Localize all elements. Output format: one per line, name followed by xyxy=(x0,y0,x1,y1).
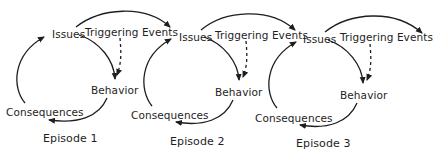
node-consequences-3: Consequences xyxy=(255,113,333,124)
arrow-consequences-to-issues-2 xyxy=(144,39,171,106)
node-behavior-1: Behavior xyxy=(91,85,138,96)
node-triggering-events-2: Triggering Events xyxy=(215,30,308,41)
node-consequences-1: Consequences xyxy=(6,107,84,118)
episode-label-1: Episode 1 xyxy=(43,133,98,144)
dashed-arrow-triggering-to-behavior-2 xyxy=(243,41,247,77)
arrow-issues2-to-issues3 xyxy=(201,14,295,30)
arrow-issues1-to-issues2 xyxy=(76,11,170,27)
dashed-arrow-triggering-to-behavior-1 xyxy=(117,38,121,75)
node-issues-2: Issues xyxy=(179,32,212,43)
arrow-issues-to-behavior-1 xyxy=(79,35,115,79)
episode-label-2: Episode 2 xyxy=(170,136,225,147)
arrow-issues-to-behavior-3 xyxy=(328,40,363,83)
episode-label-3: Episode 3 xyxy=(296,138,351,149)
node-behavior-2: Behavior xyxy=(215,87,262,98)
node-issues-3: Issues xyxy=(303,34,336,45)
node-triggering-events-1: Triggering Events xyxy=(85,27,178,38)
arrow-consequences-to-issues-1 xyxy=(17,37,44,103)
arrow-consequences-to-issues-3 xyxy=(269,42,296,108)
node-consequences-2: Consequences xyxy=(131,110,209,121)
node-behavior-3: Behavior xyxy=(340,90,387,101)
node-triggering-events-3: Triggering Events xyxy=(340,32,433,43)
arrow-issues-to-behavior-2 xyxy=(204,37,239,80)
node-issues-1: Issues xyxy=(52,29,85,40)
dashed-arrow-triggering-to-behavior-3 xyxy=(367,44,371,80)
